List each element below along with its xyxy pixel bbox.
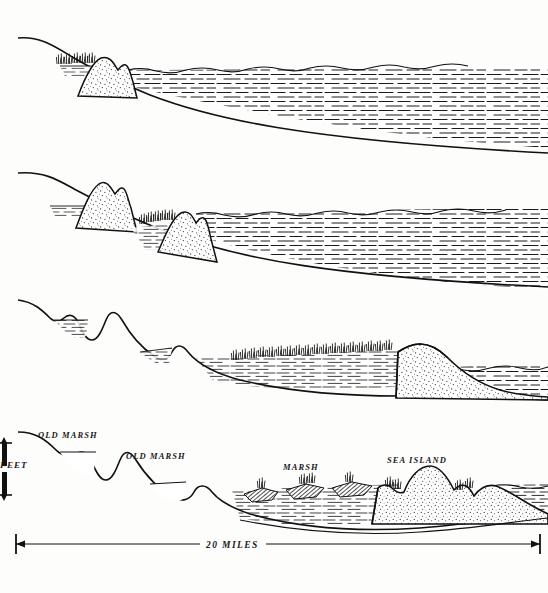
old-marsh-label-2: OLD MARSH bbox=[126, 451, 186, 461]
figure-container: FEET 20 MILES OLD MARSH OLD MARSH MARSH … bbox=[0, 0, 548, 593]
distance-scale-label: 20 MILES bbox=[205, 540, 259, 550]
feet-axis-label: FEET bbox=[0, 460, 28, 470]
marsh-label: MARSH bbox=[282, 462, 319, 472]
sea-island-label: SEA ISLAND bbox=[387, 455, 447, 465]
old-marsh-label-1: OLD MARSH bbox=[38, 430, 98, 440]
cross-section-diagram: FEET 20 MILES OLD MARSH OLD MARSH MARSH … bbox=[0, 0, 548, 593]
